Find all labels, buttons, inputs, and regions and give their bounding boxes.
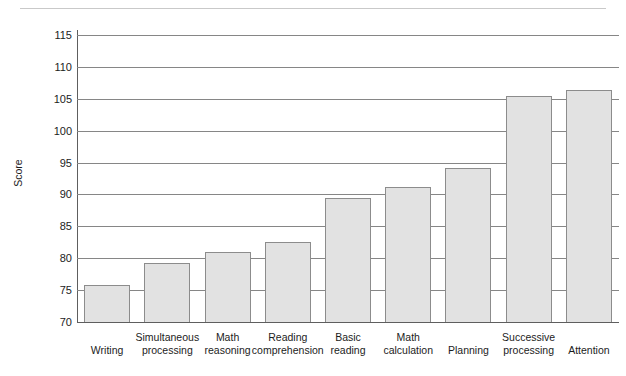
gridline [77, 35, 619, 36]
y-axis-tick-label: 115 [38, 35, 72, 36]
y-axis-tick-label: 95 [38, 163, 72, 164]
x-axis-label-line: Successive [469, 331, 589, 344]
y-axis-tick-label: 105 [38, 99, 72, 100]
x-axis-label-line: Math [348, 331, 468, 344]
y-axis-tick-label: 90 [38, 194, 72, 195]
x-axis-line [77, 322, 619, 323]
y-axis-tick-label: 80 [38, 258, 72, 259]
x-axis-label-line: Attention [529, 344, 626, 357]
y-axis-tick-label: 85 [38, 226, 72, 227]
bar [445, 168, 491, 322]
bar [566, 90, 612, 322]
bar-chart: Score 707580859095100105110115 WritingSi… [0, 0, 626, 376]
y-axis-tick-label: 100 [38, 131, 72, 132]
y-axis-tick-label: 110 [38, 67, 72, 68]
bar [325, 198, 371, 322]
y-axis-tick-label: 70 [38, 322, 72, 323]
x-axis-category-label: Attention [529, 344, 626, 357]
bar [385, 187, 431, 322]
gridline [77, 67, 619, 68]
y-axis-title: Score [12, 143, 24, 203]
bar [265, 242, 311, 322]
bar [506, 96, 552, 322]
bar [205, 252, 251, 322]
plot-area [77, 35, 619, 322]
y-axis-tick-label: 75 [38, 290, 72, 291]
bar [84, 285, 130, 322]
bar [144, 263, 190, 322]
